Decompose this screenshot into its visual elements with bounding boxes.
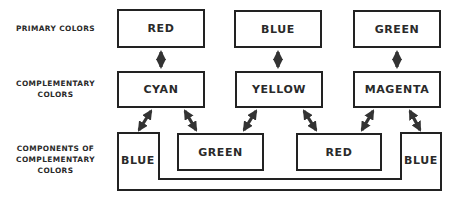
component-box-red: RED [296, 133, 382, 171]
arrow-magenta-blue [410, 111, 420, 130]
box-label: MAGENTA [365, 83, 430, 96]
row-label-line: COLORS [8, 165, 103, 176]
arrow-magenta-red [362, 111, 373, 130]
complementary-box-yellow: YELLOW [235, 71, 323, 108]
row-label-line: COLORS [8, 89, 103, 100]
row-label-components-of-complementary-colors: COMPONENTS OF COMPLEMENTARY COLORS [8, 143, 103, 176]
row-label-line: COMPONENTS OF [8, 143, 103, 154]
row-label-complementary-colors: COMPLEMENTARY COLORS [8, 78, 103, 100]
box-label: YELLOW [252, 83, 306, 96]
box-label: CYAN [143, 83, 178, 96]
blue-components-bracket [118, 133, 441, 190]
arrow-cyan-blue [139, 111, 151, 130]
box-label: RED [326, 146, 353, 159]
primary-box-red: RED [117, 9, 205, 48]
primary-box-blue: BLUE [234, 10, 322, 48]
arrow-cyan-green [185, 111, 196, 130]
complementary-box-magenta: MAGENTA [353, 71, 441, 108]
arrow-yellow-green [244, 111, 256, 130]
component-box-green: GREEN [177, 133, 264, 171]
component-label-blue-right: BLUE [404, 154, 438, 167]
component-label-blue-left: BLUE [121, 154, 155, 167]
box-label: GREEN [198, 146, 243, 159]
primary-box-green: GREEN [353, 10, 441, 48]
arrow-yellow-red [304, 111, 316, 130]
row-label-line: PRIMARY COLORS [8, 23, 103, 34]
complementary-box-cyan: CYAN [117, 71, 205, 108]
row-label-line: COMPLEMENTARY [8, 78, 103, 89]
box-label: BLUE [261, 23, 295, 36]
row-label-primary-colors: PRIMARY COLORS [8, 23, 103, 34]
box-label: RED [148, 22, 175, 35]
box-label: GREEN [375, 23, 420, 36]
row-label-line: COMPLEMENTARY [8, 154, 103, 165]
